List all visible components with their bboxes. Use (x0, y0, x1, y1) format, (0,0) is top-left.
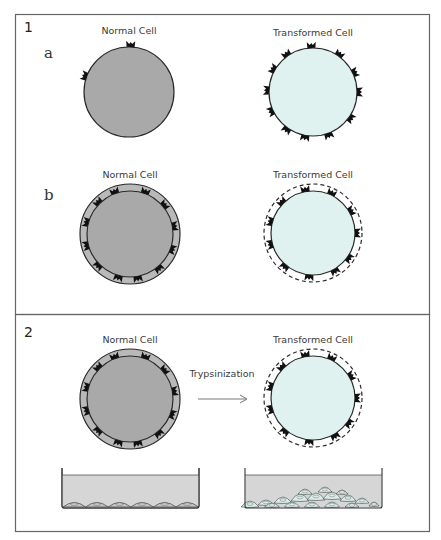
panel-2-transformed-cell (264, 349, 362, 447)
row-b-transformed-cell (264, 184, 362, 282)
normal-culture-dish (62, 468, 199, 508)
row-a-transformed-label: Transformed Cell (272, 27, 353, 38)
cell-membrane (84, 47, 174, 137)
cell-membrane (271, 191, 355, 275)
row-b-normal-label: Normal Cell (102, 169, 157, 180)
cell-membrane (87, 356, 173, 442)
receptor-icon (126, 41, 135, 47)
panel-2-number: 2 (24, 324, 33, 340)
panel-1-number: 1 (24, 19, 33, 35)
receptor-icon (304, 439, 313, 446)
row-a-transformed-cell (263, 42, 363, 142)
panel-2-normal-cell (80, 349, 180, 449)
row-a-letter: a (44, 44, 53, 62)
receptor-icon (307, 42, 316, 48)
row-a-normal-cell (80, 41, 174, 137)
row-b-letter: b (44, 186, 54, 204)
panel-2-transformed-label: Transformed Cell (272, 334, 353, 345)
trypsinization-arrow (198, 395, 247, 403)
panel-2-normal-label: Normal Cell (102, 334, 157, 345)
panel-1-frame (16, 15, 430, 315)
receptor-icon (304, 274, 313, 281)
cell-membrane (271, 356, 355, 440)
receptor-icon (357, 88, 363, 97)
receptor-icon (263, 86, 269, 95)
trypsinization-label: Trypsinization (188, 368, 254, 379)
cell-membrane (87, 191, 173, 277)
receptor-icon (355, 229, 361, 238)
row-b-transformed-label: Transformed Cell (272, 169, 353, 180)
row-a-normal-label: Normal Cell (101, 25, 156, 36)
figure-canvas: 1 a b 2 Normal Cell Transformed Cell Nor… (0, 0, 441, 540)
transformed-culture-dish (241, 468, 382, 508)
row-b-normal-cell (80, 184, 180, 284)
receptor-icon (355, 394, 361, 403)
normal-dish-medium (63, 475, 199, 508)
cell-membrane (269, 48, 357, 136)
